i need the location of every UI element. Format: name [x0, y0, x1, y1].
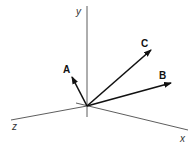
vector-c-label: C: [141, 38, 148, 49]
x-axis-label: x: [179, 133, 186, 144]
vector-b-label: B: [159, 70, 166, 81]
y-axis-label: y: [75, 6, 82, 17]
vector-diagram: y x z A B C: [0, 0, 192, 146]
vector-a-label: A: [63, 64, 70, 75]
z-axis: [11, 106, 87, 120]
vector-a: [72, 77, 87, 106]
x-axis: [76, 103, 188, 130]
z-axis-label: z: [11, 121, 17, 132]
